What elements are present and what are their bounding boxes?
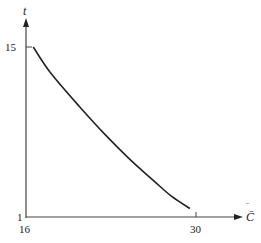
x-tick-label-30: 30	[190, 223, 202, 235]
y-tick-label-1: 1	[17, 211, 23, 223]
x-tick-label-16: 16	[19, 223, 31, 235]
y-tick-label-15: 15	[5, 41, 17, 53]
chart: t C̄ ‾ 15 1 16 30	[0, 0, 261, 243]
y-axis-label: t	[23, 4, 27, 18]
x-axis-label: C̄	[246, 210, 255, 224]
data-curve	[33, 47, 190, 209]
x-axis-arrow-icon	[234, 214, 243, 220]
y-axis-arrow-icon	[23, 18, 29, 27]
